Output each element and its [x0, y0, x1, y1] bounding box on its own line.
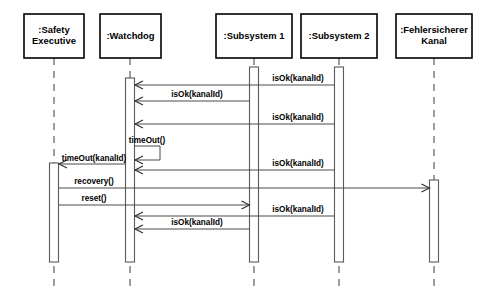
- lifeline-label-watchdog: :Watchdog: [106, 30, 154, 41]
- message-label-msg-8: reset(): [81, 194, 106, 203]
- message-label-msg-4-self: timeOut(): [129, 136, 166, 145]
- message-msg-3[interactable]: isOk(kanalId): [135, 113, 335, 128]
- activation-bar-subsystem-1: [250, 67, 259, 262]
- message-label-msg-3: isOk(kanalId): [272, 113, 324, 122]
- activation-bar-watchdog: [126, 78, 135, 262]
- lifeline-head-watchdog[interactable]: :Watchdog: [100, 14, 161, 58]
- message-msg-2[interactable]: isOk(kanalId): [135, 90, 250, 105]
- message-msg-5[interactable]: timeOut(kanalId): [59, 154, 127, 168]
- lifeline-label-safety-executive-line2: Executive: [32, 35, 76, 46]
- message-label-msg-5: timeOut(kanalId): [62, 154, 127, 163]
- message-msg-7[interactable]: recovery(): [59, 177, 430, 192]
- lifeline-head-fehlersicherer-kanal[interactable]: :FehlersichererKanal: [396, 14, 472, 58]
- lifeline-label-subsystem-2: :Subsystem 2: [309, 30, 370, 41]
- uml-sequence-diagram: isOk(kanalId)isOk(kanalId)isOk(kanalId)t…: [0, 0, 496, 300]
- message-msg-10[interactable]: isOk(kanalId): [135, 218, 250, 233]
- lifeline-head-subsystem-2[interactable]: :Subsystem 2: [301, 14, 377, 58]
- message-label-msg-1: isOk(kanalId): [272, 74, 324, 83]
- message-label-msg-2: isOk(kanalId): [171, 90, 223, 99]
- message-msg-8[interactable]: reset(): [59, 194, 250, 209]
- message-msg-1[interactable]: isOk(kanalId): [135, 74, 335, 89]
- activation-bar-fehlersicherer-kanal: [430, 180, 439, 262]
- lifeline-head-layer: :SafetyExecutive:Watchdog:Subsystem 1:Su…: [24, 14, 472, 58]
- message-label-msg-9: isOk(kanalId): [272, 205, 324, 214]
- activation-bar-subsystem-2: [335, 67, 344, 262]
- message-label-msg-6: isOk(kanalId): [272, 159, 324, 168]
- lifeline-head-safety-executive[interactable]: :SafetyExecutive: [24, 14, 84, 58]
- lifeline-label-fehlersicherer-kanal-line1: :Fehlersicherer: [400, 24, 468, 35]
- message-layer: isOk(kanalId)isOk(kanalId)isOk(kanalId)t…: [59, 74, 430, 233]
- lifeline-dash-layer: [54, 58, 434, 288]
- message-label-msg-7: recovery(): [74, 177, 114, 186]
- message-label-msg-10: isOk(kanalId): [171, 218, 223, 227]
- lifeline-label-fehlersicherer-kanal-line2: Kanal: [421, 35, 447, 46]
- diagram-canvas: isOk(kanalId)isOk(kanalId)isOk(kanalId)t…: [0, 0, 496, 300]
- message-msg-6[interactable]: isOk(kanalId): [135, 159, 335, 174]
- lifeline-label-safety-executive-line1: :Safety: [38, 24, 70, 35]
- lifeline-head-subsystem-1[interactable]: :Subsystem 1: [216, 14, 292, 58]
- message-msg-9[interactable]: isOk(kanalId): [135, 205, 335, 220]
- activation-bar-safety-executive: [50, 163, 59, 262]
- lifeline-label-subsystem-1: :Subsystem 1: [224, 30, 285, 41]
